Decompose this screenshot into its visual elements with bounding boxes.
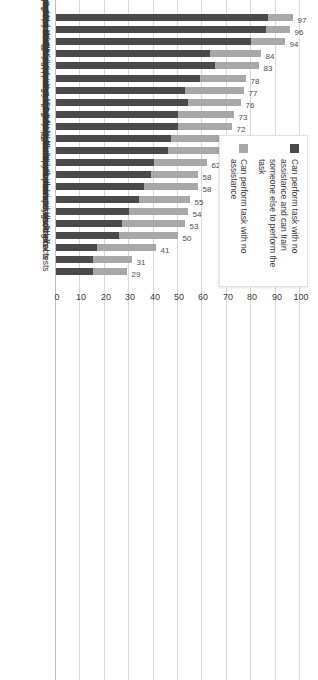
bar-segment-trainer (56, 50, 210, 57)
bar-value-label: 84 (265, 52, 274, 61)
legend-swatch-dark-icon (290, 144, 299, 153)
bar-group (56, 87, 244, 94)
bar-value-label: 76 (246, 100, 255, 109)
bar-segment-trainer (56, 159, 154, 166)
bar-segment-no-assistance (129, 208, 188, 215)
bar-segment-no-assistance (139, 196, 190, 203)
bar-value-label: 50 (183, 233, 192, 242)
bar-segment-trainer (56, 196, 139, 203)
bar-segment-trainer (56, 87, 185, 94)
bar-group (56, 123, 232, 130)
bar-value-label: 94 (290, 40, 299, 49)
bar-segment-no-assistance (122, 220, 185, 227)
bar-segment-trainer (56, 123, 178, 130)
bar-group (56, 50, 261, 57)
bar-group (56, 171, 198, 178)
bar-segment-no-assistance (266, 26, 290, 33)
bar-segment-no-assistance (97, 244, 156, 251)
bar-segment-trainer (56, 232, 119, 239)
bar-segment-no-assistance (93, 256, 132, 263)
bar-segment-no-assistance (178, 111, 234, 118)
bar-value-label: 73 (239, 112, 248, 121)
bar-value-label: 83 (263, 64, 272, 73)
bar-group (56, 135, 229, 142)
bar-value-label: 29 (131, 270, 140, 279)
bar-segment-no-assistance (93, 268, 127, 275)
bar-group (56, 99, 241, 106)
bar-value-label: 55 (195, 197, 204, 206)
bar-value-label: 41 (161, 245, 170, 254)
bar-segment-trainer (56, 208, 129, 215)
bar-value-label: 58 (202, 173, 211, 182)
bar-group (56, 256, 132, 263)
bar-segment-trainer (56, 220, 122, 227)
bar-segment-no-assistance (168, 147, 219, 154)
bar-segment-no-assistance (151, 171, 197, 178)
bar-segment-trainer (56, 99, 188, 106)
bar-segment-trainer (56, 183, 144, 190)
bar-group (56, 220, 185, 227)
plot-area: 0102030405060708090100 97969484837877767… (0, 0, 318, 680)
bar-value-label: 31 (136, 258, 145, 267)
bar-segment-trainer (56, 256, 93, 263)
bar-segment-trainer (56, 244, 97, 251)
bar-group (56, 38, 285, 45)
bar-group (56, 232, 178, 239)
bar-segment-trainer (56, 75, 200, 82)
legend-swatch-light-icon (240, 144, 249, 153)
bar-segment-trainer (56, 135, 171, 142)
bar-value-label: 54 (192, 209, 201, 218)
bar-segment-trainer (56, 147, 168, 154)
bar-segment-no-assistance (188, 99, 242, 106)
bar-segment-no-assistance (210, 50, 261, 57)
bar-segment-trainer (56, 14, 268, 21)
bar-segment-no-assistance (178, 123, 232, 130)
bar-segment-trainer (56, 26, 266, 33)
bar-value-label: 58 (202, 185, 211, 194)
bar-segment-no-assistance (215, 62, 259, 69)
bar-segment-no-assistance (144, 183, 198, 190)
bar-value-label: 78 (251, 76, 260, 85)
bar-value-label: 77 (248, 88, 257, 97)
bar-group (56, 14, 293, 21)
bar-segment-trainer (56, 111, 178, 118)
chart-figure: 0102030405060708090100 97969484837877767… (0, 0, 318, 680)
legend-entry-no-assistance: Can perform task with no assistance (228, 144, 250, 277)
bar-segment-trainer (56, 171, 151, 178)
bar-group (56, 183, 198, 190)
bar-segment-no-assistance (268, 14, 292, 21)
bar-group (56, 159, 207, 166)
category-label: Administer/score neuropsychological test… (41, 72, 51, 272)
bar-group (56, 62, 259, 69)
legend-label-no-assistance: Can perform task with no assistance (228, 159, 250, 277)
bar-segment-no-assistance (185, 87, 244, 94)
legend-entry-trainer: Can perform task with no assistance and … (257, 144, 301, 277)
bar-group (56, 111, 234, 118)
bar-group (56, 208, 188, 215)
bar-segment-trainer (56, 38, 251, 45)
bar-group (56, 244, 156, 251)
bar-value-label: 96 (295, 28, 304, 37)
bar-segment-no-assistance (251, 38, 285, 45)
bar-segment-trainer (56, 268, 93, 275)
bar-segment-no-assistance (200, 75, 246, 82)
bar-group (56, 147, 219, 154)
legend: Can perform task with no assistance and … (219, 135, 308, 287)
bar-value-label: 53 (190, 221, 199, 230)
bar-segment-no-assistance (154, 159, 208, 166)
bar-group (56, 26, 290, 33)
legend-label-trainer: Can perform task with no assistance and … (257, 159, 301, 277)
bar-group (56, 196, 190, 203)
bar-value-label: 97 (297, 16, 306, 25)
bar-value-label: 72 (236, 124, 245, 133)
bar-segment-trainer (56, 62, 215, 69)
bar-group (56, 268, 127, 275)
bar-segment-no-assistance (119, 232, 178, 239)
bar-group (56, 75, 246, 82)
